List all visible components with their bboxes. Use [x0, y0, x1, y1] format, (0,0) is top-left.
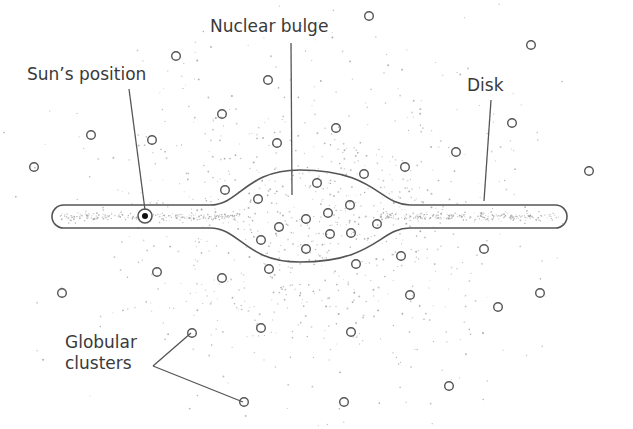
globular-leader-bottom	[153, 366, 243, 402]
globular-cluster-icon	[87, 131, 96, 140]
globular-cluster-icon	[508, 119, 517, 128]
globular-cluster-icon	[58, 289, 67, 298]
globular-cluster-icon	[340, 398, 349, 407]
sun-dot-icon	[142, 213, 148, 219]
globular-cluster-icon	[332, 124, 341, 133]
globular-cluster-icon	[218, 274, 227, 283]
globular-cluster-icon	[257, 236, 266, 245]
globular-cluster-icon	[480, 245, 489, 254]
globular-cluster-icon	[347, 229, 356, 238]
globular-cluster-icon	[273, 139, 282, 148]
globular-cluster-icon	[254, 195, 263, 204]
milky-way-diagram: Nuclear bulge Sun’s position Disk Globul…	[0, 0, 633, 429]
globular-cluster-icon	[365, 12, 374, 21]
sun-position-marker	[138, 209, 152, 223]
nuclear-bulge-label: Nuclear bulge	[210, 18, 328, 35]
globular-leader-top	[153, 333, 191, 366]
globular-cluster-icon	[347, 328, 356, 337]
globular-cluster-icon	[218, 110, 227, 119]
globular-cluster-icon	[401, 163, 410, 172]
globular-cluster-icon	[452, 148, 461, 157]
globular-cluster-icon	[172, 52, 181, 61]
globular-cluster-icon	[406, 291, 415, 300]
globular-cluster-icon	[352, 260, 361, 269]
globular-cluster-icon	[494, 303, 503, 312]
globular-cluster-icon	[585, 167, 594, 176]
sun-position-label: Sun’s position	[27, 66, 146, 83]
globular-cluster-icon	[346, 201, 355, 210]
globular-clusters-label: Globular clusters	[65, 332, 137, 375]
globular-cluster-icon	[240, 398, 249, 407]
globular-cluster-icon	[302, 215, 311, 224]
globular-cluster-icon	[313, 179, 322, 188]
globular-cluster-icon	[527, 41, 536, 50]
globular-cluster-icon	[188, 329, 197, 338]
globular-cluster-icon	[324, 209, 333, 218]
globular-cluster-icon	[257, 324, 266, 333]
globular-cluster-icon	[221, 186, 230, 195]
disk-leader	[484, 100, 491, 201]
globular-cluster-icon	[373, 220, 382, 229]
globular-cluster-icon	[148, 136, 157, 145]
sun-leader	[129, 89, 145, 210]
globular-cluster-icon	[265, 265, 274, 274]
disk-label: Disk	[467, 77, 504, 94]
globular-cluster-icon	[302, 245, 311, 254]
globular-cluster-icon	[30, 163, 39, 172]
globular-cluster-icon	[360, 170, 369, 179]
globular-cluster-icon	[264, 76, 273, 85]
globular-cluster-icon	[397, 252, 406, 261]
globular-cluster-icon	[445, 382, 454, 391]
globular-cluster-icon	[536, 289, 545, 298]
